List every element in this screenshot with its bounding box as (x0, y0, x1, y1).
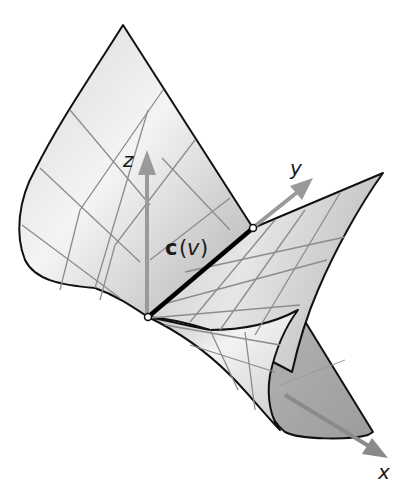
z-axis-label: z (122, 148, 134, 172)
curve-label-param: v (187, 236, 200, 260)
curve-end-point (250, 225, 257, 232)
curve-label: c ( v ) (165, 236, 208, 260)
curve-label-c: c (165, 236, 177, 260)
curve-start-point (145, 314, 152, 321)
curve-label-close-paren: ) (200, 236, 208, 260)
y-axis-label: y (289, 156, 303, 180)
curve-label-open-paren: ( (179, 236, 187, 260)
ruled-surface-diagram: z y x c ( v ) (0, 0, 416, 503)
x-axis-label: x (377, 460, 390, 484)
